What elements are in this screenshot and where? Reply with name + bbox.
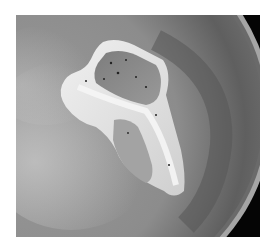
chop-in-pan-illustration <box>16 15 260 237</box>
food-photo: A bone-in chop searing in a pan with ste… <box>16 15 260 237</box>
